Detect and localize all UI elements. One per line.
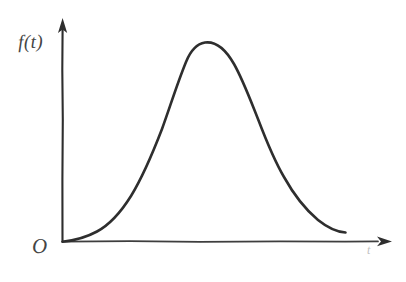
- bell-curve-path: [63, 42, 346, 241]
- x-axis-label: t: [367, 243, 370, 258]
- origin-label: O: [32, 234, 48, 260]
- x-axis-line: [63, 241, 379, 242]
- figure-canvas: f(t) O t: [0, 0, 406, 282]
- y-axis-label: f(t): [18, 31, 44, 54]
- y-axis-line: [62, 29, 63, 242]
- graph-svg: [0, 0, 406, 282]
- x-axis-arrowhead-icon: [377, 237, 392, 247]
